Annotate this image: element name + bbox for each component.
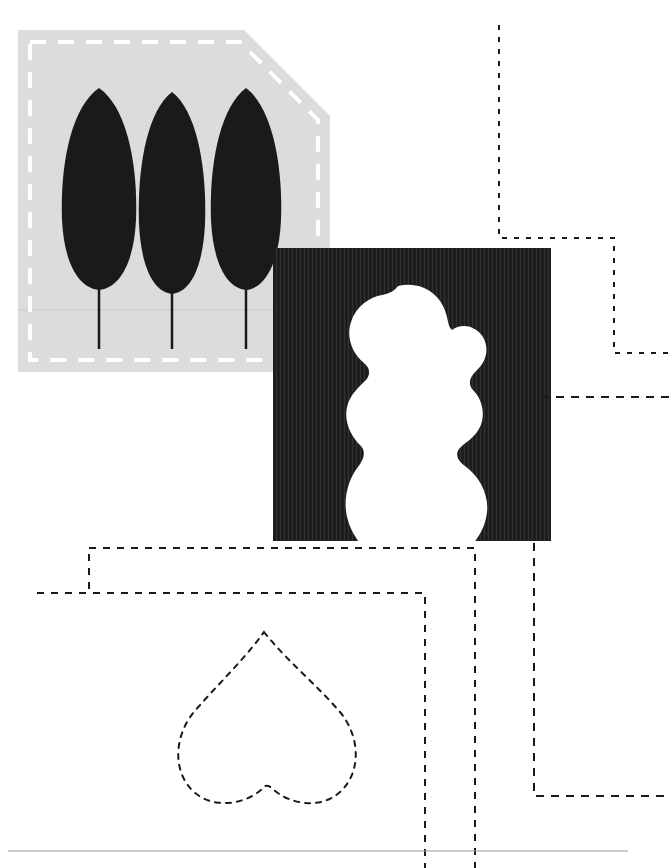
- bottom-rule-layer: [0, 0, 669, 868]
- composition-canvas: Composition of a dashed tree panel, a te…: [0, 0, 669, 868]
